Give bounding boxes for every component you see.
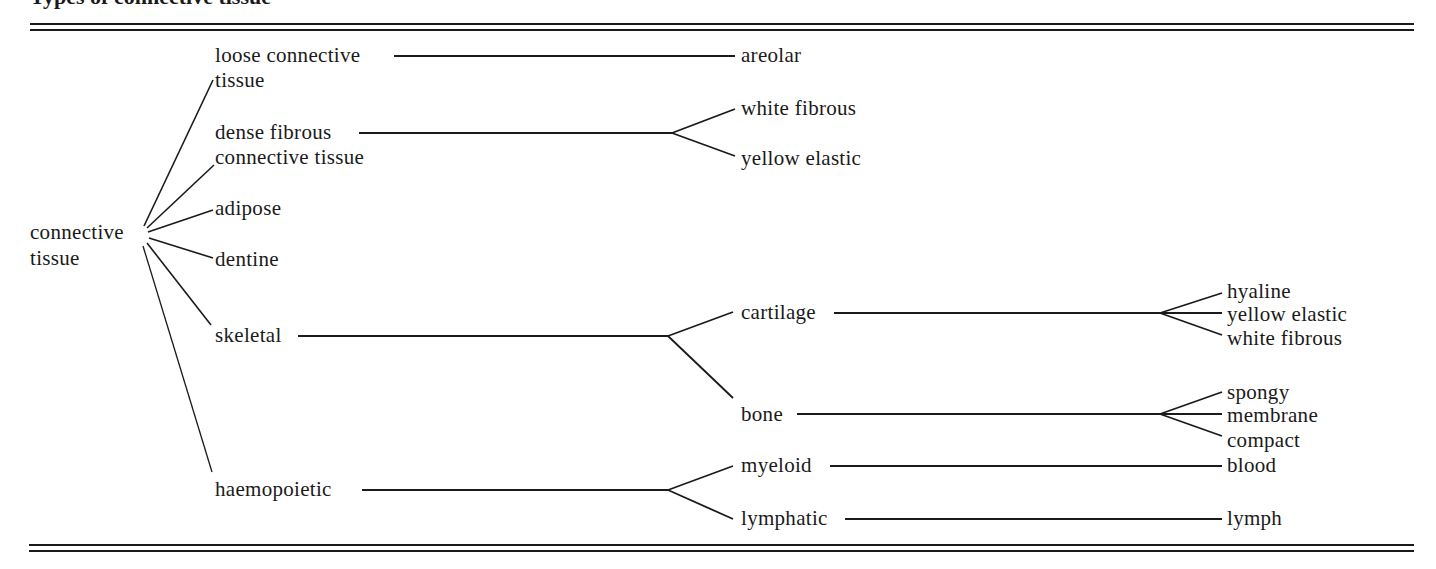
edge-cartilage-hyaline — [1160, 293, 1222, 313]
edge-cartilage-whitefibrous — [1160, 313, 1222, 335]
node-cartilage: cartilage — [741, 300, 816, 324]
edge-root-dentine — [149, 238, 213, 258]
node-myeloid: myeloid — [741, 453, 812, 477]
node-dense-white-fibrous: white fibrous — [741, 96, 856, 120]
node-root-line2: tissue — [30, 246, 80, 270]
node-bone: bone — [741, 402, 783, 426]
edge-dense-yellowelastic — [672, 133, 735, 156]
node-membrane: membrane — [1227, 403, 1318, 427]
node-areolar: areolar — [741, 43, 801, 67]
node-blood: blood — [1227, 453, 1276, 477]
node-loose-line1: loose connective — [215, 43, 360, 67]
node-loose-line2: tissue — [215, 68, 265, 92]
edge-haemopoietic-lymphatic — [668, 490, 733, 519]
node-dense-line2: connective tissue — [215, 145, 364, 169]
node-root-line1: connective — [30, 220, 124, 244]
edge-root-adipose — [148, 210, 213, 232]
node-cartilage-white-fibrous: white fibrous — [1227, 326, 1342, 350]
edge-skeletal-cartilage — [668, 312, 733, 336]
edge-root-loose — [144, 80, 213, 226]
edge-skeletal-bone — [668, 336, 733, 398]
edge-root-skeletal — [147, 243, 211, 325]
node-skeletal: skeletal — [215, 323, 282, 347]
node-lymph: lymph — [1227, 506, 1282, 530]
edge-root-haemopoietic — [143, 246, 212, 472]
node-haemopoietic: haemopoietic — [215, 477, 332, 501]
node-hyaline: hyaline — [1227, 279, 1291, 303]
node-dentine: dentine — [215, 247, 279, 271]
node-dense-yellow-elastic: yellow elastic — [741, 146, 861, 170]
node-lymphatic: lymphatic — [741, 506, 828, 530]
node-adipose: adipose — [215, 196, 281, 220]
edge-bone-spongy — [1160, 392, 1222, 414]
edge-root-dense — [147, 165, 214, 228]
edge-bone-compact — [1160, 414, 1222, 436]
node-compact: compact — [1227, 428, 1300, 452]
edge-haemopoietic-myeloid — [668, 466, 733, 490]
edge-dense-whitefibrous — [672, 109, 735, 133]
node-spongy: spongy — [1227, 380, 1289, 404]
node-cartilage-yellow-elastic: yellow elastic — [1227, 302, 1347, 326]
node-dense-line1: dense fibrous — [215, 120, 331, 144]
